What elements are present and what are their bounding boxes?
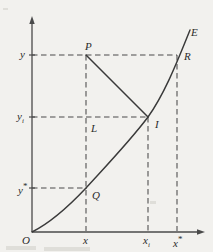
axis-label-y-mid: yi (17, 111, 24, 125)
axis-label-x-3: x* (173, 235, 182, 249)
point-label-E: E (191, 27, 198, 38)
axes-group (29, 16, 205, 235)
dashed-guides-group (32, 55, 177, 231)
point-label-L: L (91, 123, 97, 134)
y-axis-arrowhead (29, 16, 34, 24)
exponential-curve (32, 30, 190, 232)
scan-speck (6, 246, 36, 250)
scan-speck (150, 201, 156, 204)
axis-label-y-low-star: * (23, 181, 28, 191)
axis-label-y-top: y (20, 49, 25, 60)
point-label-I: I (155, 119, 159, 130)
scan-speck (3, 8, 8, 10)
axis-label-y-mid-subscript: i (22, 117, 24, 125)
x-axis-arrowhead (197, 229, 205, 234)
axis-label-y-low: y* (18, 182, 27, 196)
diagram-svg (0, 0, 213, 252)
scan-speck (44, 247, 90, 251)
point-label-R: R (184, 51, 191, 62)
axis-label-x-2: xi (143, 235, 150, 249)
figure-canvas: y yi y* O x xi x* P E R I L Q (0, 0, 213, 252)
point-label-P: P (85, 41, 92, 52)
axis-label-x-2-subscript: i (148, 241, 150, 249)
chord-P-I (86, 55, 148, 117)
axis-label-x-3-star: * (178, 234, 183, 244)
axis-label-origin: O (22, 235, 30, 246)
point-label-Q: Q (92, 190, 100, 201)
axis-label-x-1: x (83, 235, 88, 246)
